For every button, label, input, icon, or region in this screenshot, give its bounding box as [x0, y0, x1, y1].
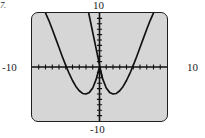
plot-area [32, 13, 167, 121]
window-label-xmax: 10 [187, 62, 198, 73]
window-label-ymin: -10 [90, 124, 105, 135]
graphing-calculator-screen [31, 12, 168, 122]
window-label-ymax: 10 [93, 0, 104, 11]
window-label-xmin: -10 [2, 62, 17, 73]
figure-number-label: 7. [0, 1, 7, 10]
